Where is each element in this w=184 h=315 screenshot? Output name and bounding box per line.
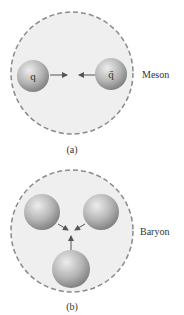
caption-b: (b) (66, 301, 78, 313)
antiquark-label: q̄ (108, 68, 114, 80)
meson-panel: q q̄ Meson (a) (11, 12, 169, 156)
meson-label: Meson (142, 69, 169, 80)
quark-sphere (24, 194, 60, 230)
baryon-panel: Baryon (b) (11, 170, 169, 313)
quark-sphere (83, 194, 119, 230)
baryon-label: Baryon (140, 226, 169, 237)
quark-sphere (52, 250, 90, 288)
hadron-diagram: q q̄ Meson (a) Baryon (b) (0, 0, 184, 315)
caption-a: (a) (66, 144, 77, 156)
quark-label: q (30, 70, 36, 82)
